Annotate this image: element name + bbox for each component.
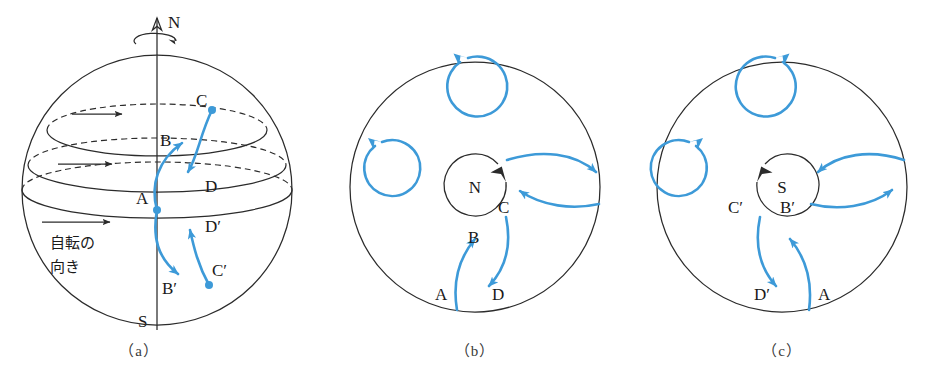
label-point-d-b: D (492, 285, 504, 304)
label-point-c: C (196, 91, 207, 110)
caption-panel-b: （b） (455, 343, 496, 359)
label-point-c-prime: C′ (212, 261, 227, 280)
trajectory-c-to-d-b (489, 217, 508, 286)
center-spin-arrowhead-b (491, 167, 507, 183)
side-flow-upper-c (818, 154, 904, 172)
trajectory-a-to-b-prime (155, 210, 178, 274)
caption-panel-a: （a） (119, 343, 159, 359)
eddy-upper-b (447, 57, 507, 117)
center-spin-arrowhead-c (757, 167, 773, 183)
label-point-a-c: A (818, 285, 831, 304)
label-point-b: B (160, 131, 171, 150)
side-flow-lower-c (811, 190, 892, 207)
label-point-a: A (136, 189, 149, 208)
trajectory-a-to-b (155, 143, 182, 210)
panel-a-sphere-side-view: N S 自転の 向き (0, 0, 320, 388)
eddy-upper-arrowhead-c (775, 54, 790, 66)
label-point-b-prime-c: B′ (780, 198, 795, 217)
label-point-b-prime: B′ (162, 279, 177, 298)
eddy-left-arrowhead-b (368, 138, 382, 150)
figure-root: N S 自転の 向き (0, 0, 935, 388)
label-point-d: D (205, 177, 217, 196)
label-center-south: S (777, 178, 786, 197)
rotation-note-line1: 自転の (50, 234, 95, 252)
label-point-d-prime-c: D′ (754, 285, 770, 304)
label-south-pole: S (138, 312, 147, 331)
eddy-upper-c (736, 57, 796, 117)
label-point-d-prime: D′ (205, 217, 221, 236)
label-point-a-b: A (435, 285, 448, 304)
label-point-c-prime-c: C′ (728, 198, 743, 217)
caption-panel-c: （c） (762, 343, 802, 359)
trajectory-c-to-d (188, 110, 212, 172)
label-point-c-b: C (498, 198, 509, 217)
label-point-b-b: B (468, 228, 479, 247)
trajectory-a-to-b-prime-c (790, 239, 810, 310)
trajectory-c-prime-to-d-prime-c (758, 217, 776, 286)
eddy-left-arrowhead-c (689, 138, 703, 150)
trajectory-c-prime-to-d-prime (190, 230, 209, 285)
rotation-note-line2: 向き (50, 258, 80, 276)
panel-c-south-pole-view: S C′ B′ D′ A （c） (620, 0, 935, 388)
eddy-left-b (364, 140, 420, 196)
side-flow-lower-b (520, 191, 599, 207)
panel-b-north-pole-view: N C B A D （b） (320, 0, 620, 388)
side-flow-upper-b (507, 154, 596, 172)
label-north-pole: N (168, 13, 180, 32)
trajectory-a-to-b-b (455, 239, 475, 310)
eddy-left-c (651, 140, 707, 196)
axis-spin-arc (134, 33, 176, 44)
label-center-north: N (469, 178, 481, 197)
